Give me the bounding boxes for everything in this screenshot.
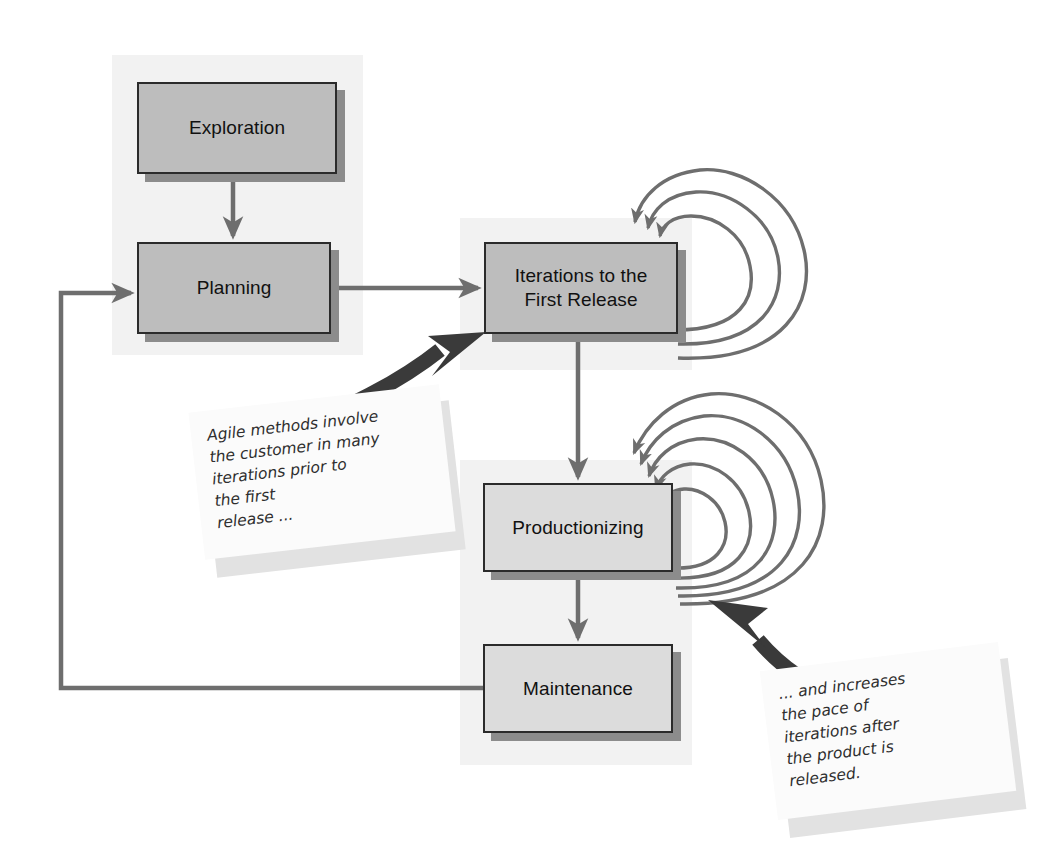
node-maintenance[interactable]: Maintenance	[483, 644, 673, 733]
planning-label: Planning	[189, 276, 280, 300]
diagram-canvas: Exploration Planning Iterations to the F…	[0, 0, 1040, 846]
sticky-note-agile-methods: Agile methods involve the customer in ma…	[188, 384, 455, 560]
productionizing-box[interactable]: Productionizing	[483, 483, 673, 572]
planning-box[interactable]: Planning	[137, 242, 331, 334]
exploration-label: Exploration	[181, 116, 293, 140]
node-planning[interactable]: Planning	[137, 242, 331, 334]
iterations-box[interactable]: Iterations to the First Release	[484, 242, 678, 334]
sticky-note-agile-methods-wrap: Agile methods involve the customer in ma…	[196, 398, 456, 568]
node-iterations[interactable]: Iterations to the First Release	[484, 242, 678, 334]
node-exploration[interactable]: Exploration	[137, 82, 337, 174]
sticky-note-increases-pace: ... and increases the pace of iterations…	[760, 642, 1016, 820]
node-productionizing[interactable]: Productionizing	[483, 483, 673, 572]
maintenance-box[interactable]: Maintenance	[483, 644, 673, 733]
iterations-label-line1: Iterations to the	[507, 264, 656, 288]
sticky-note-increases-pace-wrap: ... and increases the pace of iterations…	[768, 656, 1023, 831]
iterations-label-line2: First Release	[516, 288, 645, 312]
exploration-box[interactable]: Exploration	[137, 82, 337, 174]
productionizing-label: Productionizing	[504, 516, 651, 540]
maintenance-label: Maintenance	[515, 677, 641, 701]
